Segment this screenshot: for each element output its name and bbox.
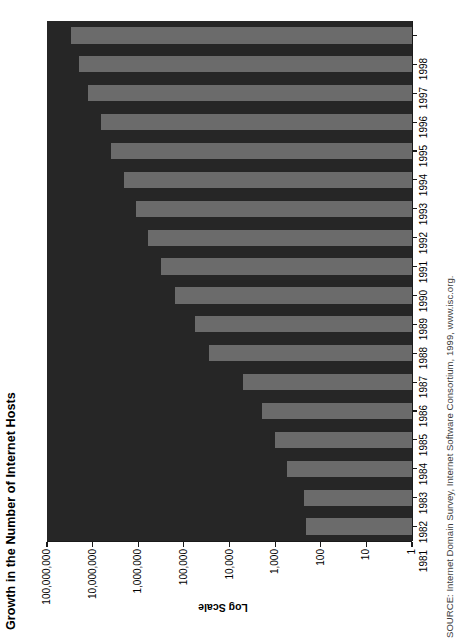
category-tick-label-1988: 1988 — [418, 341, 430, 375]
bar-1994 — [111, 143, 412, 159]
category-tick — [413, 295, 417, 296]
category-tick — [413, 497, 417, 498]
bar-1987 — [209, 345, 412, 361]
bar-row — [47, 56, 412, 72]
bar-row — [47, 518, 412, 534]
category-tick — [413, 439, 417, 440]
bar-1995 — [101, 114, 412, 130]
bar-row — [47, 85, 412, 101]
bar-1990 — [161, 258, 412, 274]
category-tick-label-1997: 1997 — [418, 81, 430, 115]
bar-1984 — [275, 432, 412, 448]
category-axis — [412, 21, 417, 541]
value-tick — [138, 542, 139, 547]
bar-row — [47, 201, 412, 217]
bar-row — [47, 374, 412, 390]
category-tick — [413, 266, 417, 267]
bar-1988 — [195, 316, 412, 332]
category-tick — [413, 353, 417, 354]
value-tick-label-10000000: 10,000,000 — [87, 549, 99, 629]
value-tick-label-10000: 10,000 — [224, 549, 236, 629]
bar-row — [47, 345, 412, 361]
value-tick — [320, 542, 321, 547]
value-tick — [183, 542, 184, 547]
bar-1982 — [304, 490, 412, 506]
bar-1991 — [148, 230, 412, 246]
value-tick-label-100000000: 100,000,000 — [41, 549, 53, 629]
category-tick — [413, 122, 417, 123]
value-tick — [92, 542, 93, 547]
bar-row — [47, 316, 412, 332]
bar-row — [47, 403, 412, 419]
bar-1986 — [243, 374, 412, 390]
bar-1992 — [136, 201, 412, 217]
bar-1989 — [175, 287, 412, 303]
bar-row — [47, 172, 412, 188]
value-tick — [366, 542, 367, 547]
category-tick — [413, 410, 417, 411]
category-tick — [413, 468, 417, 469]
category-tick — [413, 324, 417, 325]
bar-1985 — [262, 403, 412, 419]
bar-1998 — [71, 27, 412, 43]
category-tick — [413, 93, 417, 94]
source-note: SOURCE: Internet Domain Survey, Internet… — [443, 198, 457, 638]
chart-page: Growth in the Number of Internet Hosts L… — [0, 0, 466, 642]
value-tick-label-10: 10 — [360, 549, 372, 629]
bar-1993 — [124, 172, 412, 188]
category-tick-label-1996: 1996 — [418, 110, 430, 144]
plot-area — [47, 21, 412, 541]
category-tick — [413, 150, 417, 151]
value-tick-label-100: 100 — [315, 549, 327, 629]
value-tick-label-1: 1 — [406, 549, 418, 629]
bar-1983 — [287, 461, 412, 477]
bar-row — [47, 432, 412, 448]
bar-row — [47, 461, 412, 477]
category-tick-label-1986: 1986 — [418, 399, 430, 433]
category-tick — [413, 237, 417, 238]
value-axis — [47, 541, 412, 547]
category-tick-label-1998: 1998 — [418, 52, 430, 86]
bar-row — [47, 258, 412, 274]
chart-title: Growth in the Number of Internet Hosts — [2, 300, 20, 630]
bar-row — [47, 114, 412, 130]
bar-row — [47, 230, 412, 246]
category-tick — [413, 35, 417, 36]
bar-row — [47, 287, 412, 303]
category-tick-label-1985: 1985 — [418, 428, 430, 462]
category-tick — [413, 526, 417, 527]
bar-row — [47, 490, 412, 506]
bar-1996 — [88, 85, 412, 101]
value-tick — [411, 542, 412, 547]
bar-1997 — [79, 56, 412, 72]
category-tick — [413, 382, 417, 383]
category-tick — [413, 208, 417, 209]
value-tick — [229, 542, 230, 547]
category-tick-label-1987: 1987 — [418, 370, 430, 404]
value-tick-label-1000: 1,000 — [269, 549, 281, 629]
category-tick — [413, 179, 417, 180]
value-tick-label-100000: 100,000 — [178, 549, 190, 629]
bar-row — [47, 143, 412, 159]
value-tick — [275, 542, 276, 547]
bar-row — [47, 27, 412, 43]
value-tick-label-1000000: 1,000,000 — [132, 549, 144, 629]
category-tick-label-1994: 1994 — [418, 168, 430, 202]
value-tick — [46, 542, 47, 547]
category-tick-label-1995: 1995 — [418, 139, 430, 173]
bar-1981 — [306, 518, 412, 534]
category-tick — [413, 64, 417, 65]
